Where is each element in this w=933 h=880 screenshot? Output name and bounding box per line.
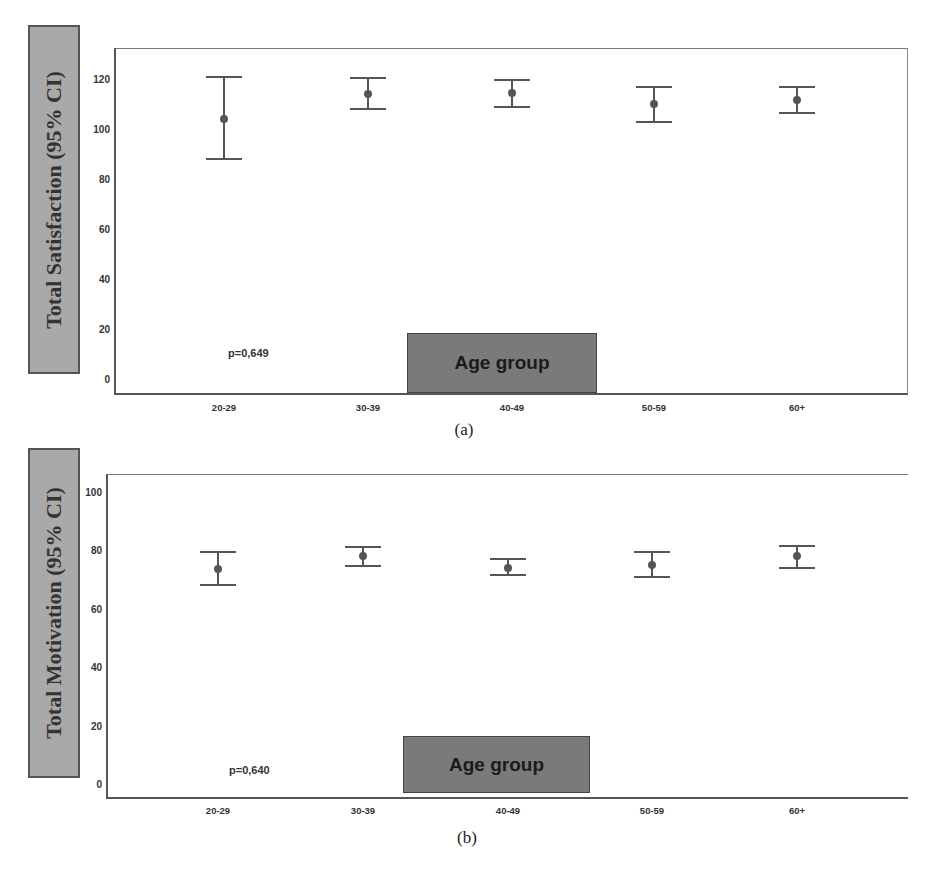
x-axis-label-box: Age group — [403, 736, 590, 793]
y-tick-label: 100 — [72, 487, 102, 498]
error-bar — [779, 546, 815, 568]
mean-marker — [648, 561, 656, 569]
chart-panel-b: Total Motivation (95% CI) 020406080100 p… — [0, 0, 933, 880]
y-tick-label: 60 — [72, 603, 102, 614]
x-tick-label: 30-39 — [351, 805, 375, 816]
y-tick-label: 40 — [72, 662, 102, 673]
error-bar — [345, 547, 381, 566]
error-bar — [634, 552, 670, 577]
x-tick-label: 50-59 — [640, 805, 664, 816]
mean-marker — [793, 552, 801, 560]
y-tick-label: 20 — [72, 720, 102, 731]
p-value-annotation: p=0,640 — [229, 764, 270, 776]
error-bar — [200, 552, 236, 586]
error-bar — [490, 559, 526, 575]
mean-marker — [214, 565, 222, 573]
x-tick-label: 20-29 — [206, 805, 230, 816]
x-tick-label: 40-49 — [496, 805, 520, 816]
mean-marker — [359, 552, 367, 560]
x-axis-label: Age group — [449, 754, 544, 776]
x-tick-label: 60+ — [789, 805, 805, 816]
y-tick-label: 80 — [72, 545, 102, 556]
y-axis-label: Total Motivation (95% CI) — [41, 487, 67, 739]
y-tick-label: 0 — [72, 779, 102, 790]
mean-marker — [504, 564, 512, 572]
panel-label-b: (b) — [457, 828, 477, 848]
